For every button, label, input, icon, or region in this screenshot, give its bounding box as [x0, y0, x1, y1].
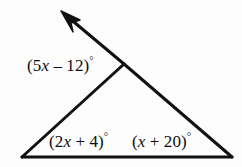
exterior-angle-degree-symbol: ° — [89, 54, 94, 66]
interior-left-angle-variable: x — [63, 132, 71, 151]
geometry-figure: (5x – 12)° (2x + 4)° (x + 20)° — [0, 0, 242, 167]
interior-right-angle-label: (x + 20)° — [132, 133, 191, 150]
exterior-angle-label: (5x – 12)° — [27, 57, 94, 74]
figure-canvas — [0, 0, 242, 167]
interior-right-angle-degree-symbol: ° — [187, 130, 192, 142]
interior-left-angle-operator: + — [75, 132, 85, 151]
interior-left-angle-label: (2x + 4)° — [49, 133, 108, 150]
ray-arrowhead-icon — [61, 11, 80, 32]
interior-left-angle-constant: 4 — [89, 132, 98, 151]
exterior-angle-variable: x — [41, 56, 49, 75]
exterior-angle-constant: 12 — [66, 56, 83, 75]
interior-right-angle-constant: 20 — [164, 132, 181, 151]
interior-left-angle-degree-symbol: ° — [104, 130, 109, 142]
exterior-angle-operator: – — [53, 56, 62, 75]
interior-right-angle-operator: + — [150, 132, 160, 151]
interior-right-angle-variable: x — [138, 132, 146, 151]
